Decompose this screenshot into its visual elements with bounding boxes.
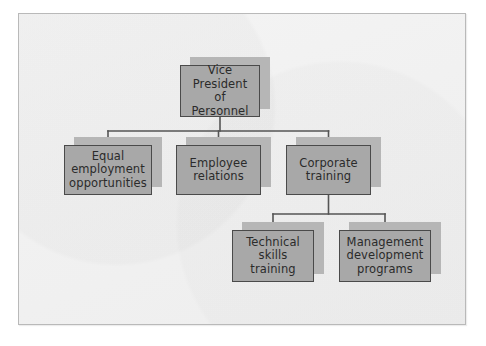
org-node-corporate-training[interactable]: Corporate training <box>286 145 371 195</box>
org-node-label: Equal employment opportunities <box>66 150 150 191</box>
org-node-management-development-programs[interactable]: Management development programs <box>339 230 431 282</box>
org-node-label: Corporate training <box>296 157 360 184</box>
org-node-label: Technical skills training <box>243 236 303 277</box>
org-node-vice-president-of-personnel[interactable]: Vice President of Personnel <box>180 65 260 117</box>
org-node-employee-relations[interactable]: Employee relations <box>176 145 261 195</box>
org-node-label: Vice President of Personnel <box>181 64 259 118</box>
org-chart-canvas: Vice President of Personnel Equal employ… <box>0 0 486 346</box>
org-node-equal-employment-opportunities[interactable]: Equal employment opportunities <box>64 145 152 195</box>
org-node-technical-skills-training[interactable]: Technical skills training <box>232 230 314 282</box>
org-node-label: Employee relations <box>187 157 251 184</box>
org-node-label: Management development programs <box>344 236 427 277</box>
